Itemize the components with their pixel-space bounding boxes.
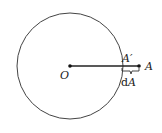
label-A-prime: A′ [121,52,133,65]
label-O: O [60,69,69,82]
point-A-dot [137,64,141,68]
label-dA-var: A [127,76,136,89]
label-dA: dA [121,76,136,89]
label-d: d [121,76,128,89]
diagram-canvas: O A′ A dA [0,0,162,133]
label-A: A [144,60,153,73]
brace-dA [122,68,139,74]
point-O-dot [68,64,72,68]
